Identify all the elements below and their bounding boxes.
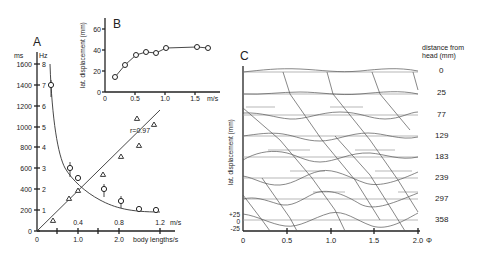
svg-text:297: 297 (435, 194, 449, 203)
b-line (115, 47, 208, 77)
svg-text:1.5: 1.5 (190, 95, 200, 102)
c-y-axis-label: lat. displacement (mm) (227, 119, 235, 185)
svg-text:2.0: 2.0 (413, 236, 423, 245)
svg-text:0: 0 (103, 95, 107, 102)
svg-text:77: 77 (437, 110, 446, 119)
hz-ticks: 1 2 3 4 5 6 7 8 (42, 61, 46, 214)
svg-text:body lengths/s: body lengths/s (133, 236, 179, 244)
panel-b: B lat. displacement (mm) 0 20 40 60 0 0.… (79, 17, 220, 102)
svg-text:-25: -25 (231, 225, 241, 232)
svg-text:1: 1 (42, 207, 46, 214)
svg-text:600: 600 (20, 165, 32, 172)
svg-text:1600: 1600 (16, 61, 32, 68)
svg-text:0: 0 (236, 218, 240, 225)
svg-text:1000: 1000 (16, 124, 32, 131)
svg-text:4: 4 (42, 144, 46, 151)
svg-text:239: 239 (435, 173, 449, 182)
svg-text:1400: 1400 (16, 82, 32, 89)
b-y-ticks: 0 20 40 60 (93, 26, 105, 96)
svg-text:200: 200 (20, 207, 32, 214)
figure: A ms Hz 0 200 400 600 800 1000 1200 1400… (0, 0, 482, 257)
svg-text:40: 40 (93, 47, 101, 54)
svg-text:8: 8 (42, 61, 46, 68)
svg-text:Φ: Φ (426, 236, 432, 245)
svg-text:0.5: 0.5 (130, 95, 140, 102)
svg-text:5: 5 (42, 124, 46, 131)
legend-title-1: distance from (422, 44, 464, 51)
svg-text:0: 0 (97, 89, 101, 96)
svg-text:3: 3 (42, 165, 46, 172)
svg-text:0: 0 (241, 236, 245, 245)
panel-c: C lat. displacement (mm) distance from h… (227, 44, 464, 245)
svg-text:25: 25 (437, 88, 446, 97)
svg-text:m/s: m/s (170, 219, 182, 226)
distance-labels: 0 25 77 129 183 239 297 358 (435, 66, 449, 224)
svg-text:2.0: 2.0 (114, 236, 124, 243)
scale-bar: +25 0 -25 (229, 211, 240, 232)
svg-text:183: 183 (435, 152, 449, 161)
panel-b-label: B (113, 17, 121, 31)
ms-axis-label: ms (14, 52, 24, 59)
svg-text:1200: 1200 (16, 103, 32, 110)
svg-text:358: 358 (435, 215, 449, 224)
svg-text:0: 0 (28, 228, 32, 235)
hz-axis-label: Hz (39, 52, 48, 59)
svg-text:0.5: 0.5 (282, 236, 292, 245)
svg-text:m/s: m/s (207, 95, 219, 102)
svg-text:1.0: 1.0 (160, 95, 170, 102)
svg-text:400: 400 (20, 186, 32, 193)
svg-text:2: 2 (42, 186, 46, 193)
svg-text:20: 20 (93, 68, 101, 75)
svg-text:1.2: 1.2 (155, 219, 165, 226)
svg-text:+25: +25 (229, 211, 240, 218)
svg-text:60: 60 (93, 26, 101, 33)
svg-text:0: 0 (439, 66, 444, 75)
svg-text:6: 6 (42, 103, 46, 110)
b-y-axis-label: lat. displacement (mm) (79, 22, 87, 88)
panel-a-label: A (33, 35, 41, 49)
legend-title-2: head (mm) (422, 52, 456, 60)
svg-text:129: 129 (435, 131, 449, 140)
panel-a: A ms Hz 0 200 400 600 800 1000 1200 1400… (14, 35, 182, 244)
r-value: r=0.97 (130, 127, 150, 134)
svg-text:800: 800 (20, 144, 32, 151)
svg-text:1.0: 1.0 (326, 236, 336, 245)
svg-text:1.5: 1.5 (369, 236, 379, 245)
svg-text:0: 0 (35, 236, 39, 243)
svg-text:1.0: 1.0 (73, 236, 83, 243)
svg-text:0.8: 0.8 (114, 219, 124, 226)
svg-text:0.4: 0.4 (73, 219, 83, 226)
svg-text:7: 7 (42, 82, 46, 89)
panel-c-label: C (240, 49, 249, 63)
b-x-ticks: 0 0.5 1.0 1.5 m/s (103, 92, 219, 102)
baselines (243, 72, 418, 220)
